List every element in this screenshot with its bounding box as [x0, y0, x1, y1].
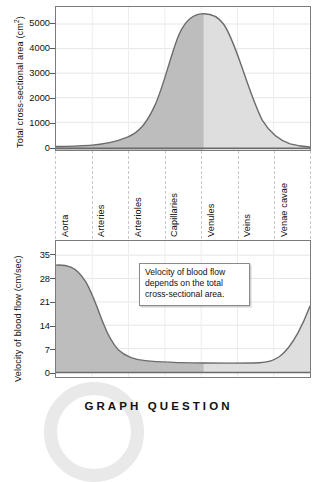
- velocity-callout: Velocity of blood flow depends on the to…: [139, 263, 250, 306]
- top-y-label-text: Total cross-sectional area (cm: [15, 23, 25, 148]
- top-chart-area-left: [56, 14, 310, 150]
- top-ytick-2000: 2000: [16, 93, 50, 103]
- top-ytick-0: 0: [16, 143, 50, 153]
- x-category-arteries: Arteries: [96, 205, 106, 237]
- bottom-ytick-21: 21: [16, 297, 50, 307]
- x-category-aorta: Aorta: [60, 215, 70, 237]
- watermark-ring: [44, 382, 144, 482]
- x-category-venules: Venules: [206, 204, 216, 237]
- top-ytick-5000: 5000: [16, 18, 50, 28]
- bottom-chart-plot-area: [55, 240, 311, 378]
- bottom-ytick-14: 14: [16, 321, 50, 331]
- bottom-chart-svg: [56, 241, 310, 377]
- top-ytick-4000: 4000: [16, 43, 50, 53]
- top-chart-y-axis-label: Total cross-sectional area (cm2): [13, 16, 25, 148]
- x-divider-3: [128, 151, 129, 239]
- x-divider-8: [310, 151, 311, 239]
- bottom-ytick-35: 35: [16, 250, 50, 260]
- bottom-ytick-0: 0: [16, 368, 50, 378]
- x-divider-2: [92, 151, 93, 239]
- x-category-venae-cavae: Venae cavae: [279, 183, 289, 237]
- x-divider-7: [274, 151, 275, 239]
- x-category-capillaries: Capillaries: [169, 193, 179, 237]
- bottom-ytick-28: 28: [16, 274, 50, 284]
- top-ytick-1000: 1000: [16, 118, 50, 128]
- top-ytick-3000: 3000: [16, 68, 50, 78]
- x-divider-6: [238, 151, 239, 239]
- x-divider-5: [201, 151, 202, 239]
- x-category-veins: Veins: [242, 214, 252, 237]
- top-chart-plot-area: [55, 6, 311, 151]
- x-divider-1: [55, 151, 56, 239]
- graph-question-footer: GRAPH QUESTION: [0, 400, 317, 412]
- x-category-arterioles: Arterioles: [133, 197, 143, 237]
- x-divider-4: [165, 151, 166, 239]
- top-chart-svg: [56, 7, 310, 150]
- bottom-ytick-7: 7: [16, 345, 50, 355]
- x-axis-category-labels: Aorta Arteries Arterioles Capillaries Ve…: [55, 151, 311, 239]
